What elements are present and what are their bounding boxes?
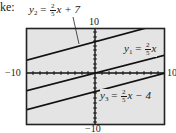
fraction-2-5: 25 xyxy=(121,89,127,104)
y-max-label: 10 xyxy=(89,17,99,27)
fraction-2-5: 25 xyxy=(145,42,151,57)
fraction-2-5: 25 xyxy=(50,3,56,18)
intro-text: ke: xyxy=(0,1,15,13)
y1-equation-label: y1 = 25x xyxy=(124,42,157,57)
x-max-label: 10 xyxy=(167,68,176,78)
y3-equation-label: y3 = 25x − 4 xyxy=(100,89,151,104)
graph-window xyxy=(0,0,176,133)
x-min-label: −10 xyxy=(5,68,21,78)
y2-equation-label: y2 = 25x + 7 xyxy=(29,3,80,18)
y-min-label: −10 xyxy=(85,124,101,133)
